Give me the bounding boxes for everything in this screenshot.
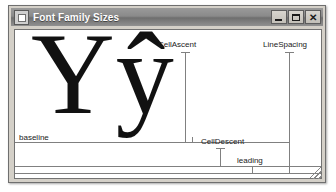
minimize-button[interactable]: [271, 10, 287, 24]
title-bar[interactable]: Font Family Sizes ✕: [11, 8, 323, 26]
baseline-rule: [15, 142, 290, 143]
maximize-icon: [289, 11, 303, 23]
linespacing-tick-top: [285, 52, 294, 53]
leading-left-connector: [211, 166, 223, 167]
celldescent-measure-line: [220, 148, 221, 167]
app-window: Font Family Sizes ✕ Ŷŷ: [8, 5, 326, 183]
celldescent-rule: [15, 166, 321, 167]
linespacing-measure-line: [289, 52, 290, 174]
leading-tick-bottom: [248, 173, 257, 174]
maximize-button[interactable]: [288, 10, 304, 24]
minimize-icon: [272, 11, 286, 23]
resize-grip[interactable]: [310, 167, 322, 179]
window-title: Font Family Sizes: [33, 12, 270, 23]
app-icon: [14, 10, 29, 25]
font-sample-glyphs: Ŷŷ: [31, 29, 175, 132]
celldescent-baseline-tick-stub: [192, 137, 193, 143]
close-button[interactable]: ✕: [305, 10, 321, 24]
close-icon: ✕: [306, 11, 320, 23]
label-leading: leading: [237, 156, 263, 165]
label-cellascent: CellAscent: [158, 40, 196, 49]
linespacing-rule: [15, 173, 321, 174]
cellascent-measure-line: [185, 52, 186, 143]
cellascent-tick-top: [181, 52, 190, 53]
diagram-canvas: Ŷŷ CellAscent LineSpacing baseline CellD…: [14, 29, 322, 179]
celldescent-tick-top: [216, 148, 225, 149]
label-baseline: baseline: [19, 133, 49, 142]
label-linespacing: LineSpacing: [263, 40, 307, 49]
label-celldescent: CellDescent: [201, 137, 244, 146]
leading-tick-top: [248, 166, 257, 167]
